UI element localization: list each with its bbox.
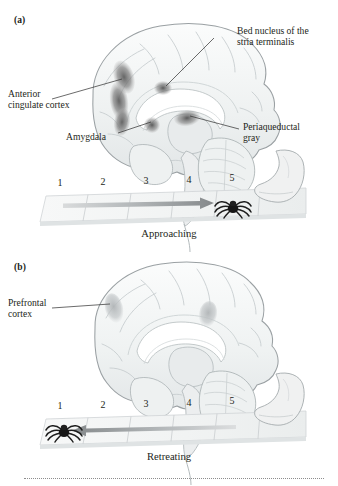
runway-a (0, 0, 338, 250)
track-b-number-1: 1 (53, 400, 67, 411)
track-a-number-3: 3 (139, 175, 153, 186)
track-b-number-2: 2 (96, 399, 110, 410)
caption-retreating: Retreating (0, 451, 338, 462)
panel-b: (b) (0, 250, 338, 486)
bottom-dotted-rule (24, 478, 324, 479)
figure-root: (a) (0, 0, 338, 486)
track-a-number-4: 4 (182, 174, 196, 185)
panel-a: (a) (0, 0, 338, 250)
track-b-number-5: 5 (225, 395, 239, 406)
track-a-number-2: 2 (96, 176, 110, 187)
track-a-number-1: 1 (53, 177, 67, 188)
track-b-number-4: 4 (182, 397, 196, 408)
caption-approaching: Approaching (0, 228, 338, 239)
track-a-number-5: 5 (225, 172, 239, 183)
track-b-number-3: 3 (139, 398, 153, 409)
